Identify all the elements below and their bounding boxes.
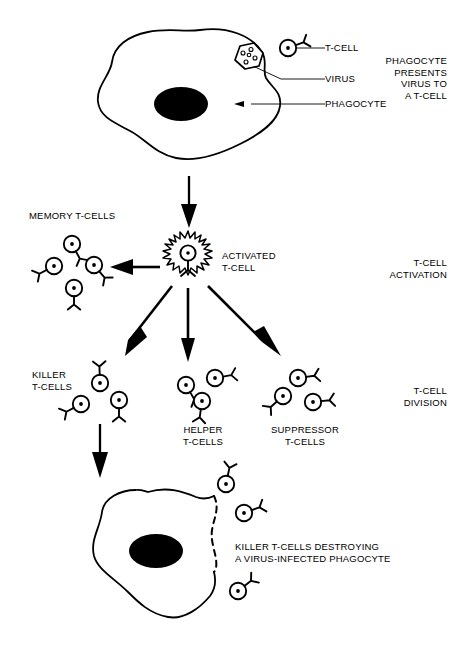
t-cell-icon bbox=[92, 361, 108, 391]
infected-phagocyte-icon bbox=[93, 489, 217, 617]
group-label-activated-t-cell: ACTIVATED T-CELL bbox=[222, 250, 276, 273]
diagram-canvas: T-CELL VIRUS PHAGOCYTE PHAGOCYTE PRESENT… bbox=[0, 0, 457, 656]
stage-label-activation: T-CELL ACTIVATION bbox=[337, 257, 447, 280]
t-cell-icon bbox=[236, 500, 267, 521]
arrow-icon-phagocyte-to-activated bbox=[181, 176, 197, 228]
t-cell-icon bbox=[59, 396, 89, 420]
memory-t-cell-group bbox=[32, 236, 113, 310]
t-cell-icon bbox=[280, 35, 311, 56]
nucleus-icon bbox=[154, 87, 208, 121]
t-cell-icon bbox=[64, 236, 88, 266]
t-cell-icon bbox=[193, 393, 210, 423]
suppressor-t-cell-group bbox=[263, 369, 335, 415]
t-cell-icon bbox=[305, 394, 335, 411]
t-cell-icon bbox=[32, 258, 62, 282]
t-cell-icon bbox=[207, 368, 238, 386]
arrow-icon-to-memory bbox=[110, 259, 160, 275]
helper-t-cell-group bbox=[178, 368, 238, 423]
t-cell-icon bbox=[86, 257, 113, 286]
group-label-suppressor-t-cells: SUPPRESSOR T-CELLS bbox=[259, 424, 351, 447]
arrow-icon-to-helper bbox=[181, 288, 195, 362]
group-label-helper-t-cells: HELPER T-CELLS bbox=[165, 424, 241, 447]
attacking-killer-t-cell-group bbox=[218, 462, 267, 600]
arrow-icon-to-suppressor bbox=[208, 286, 281, 356]
t-cell-icon bbox=[111, 392, 127, 422]
t-cell-icon bbox=[218, 462, 237, 493]
group-label-killer-t-cells: KILLER T-CELLS bbox=[32, 369, 72, 392]
callout-label-t-cell: T-CELL bbox=[325, 42, 358, 54]
arrow-icon-to-killer bbox=[125, 286, 172, 356]
arrow-icon-killer-to-phagocyte bbox=[92, 424, 108, 478]
stage-label-presentation: PHAGOCYTE PRESENTS VIRUS TO A T-CELL bbox=[337, 55, 447, 101]
activated-t-cell-icon bbox=[163, 231, 212, 276]
nucleus-icon bbox=[129, 534, 183, 568]
caption-killer-destroying: KILLER T-CELLS DESTROYING A VIRUS-INFECT… bbox=[235, 541, 391, 564]
group-label-memory-t-cells: MEMORY T-CELLS bbox=[29, 210, 115, 222]
t-cell-icon bbox=[230, 573, 259, 599]
t-cell-icon bbox=[263, 388, 291, 415]
t-cell-icon bbox=[290, 369, 320, 386]
stage-label-division: T-CELL DIVISION bbox=[337, 385, 447, 408]
t-cell-icon bbox=[66, 280, 82, 310]
